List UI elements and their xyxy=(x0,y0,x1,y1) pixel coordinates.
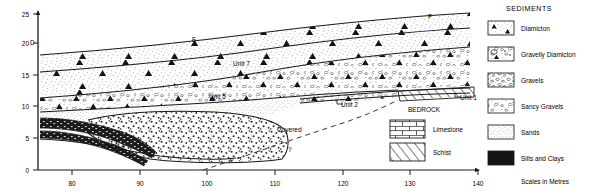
label-covered: Covered xyxy=(277,126,302,133)
label-unit-2: Unit 2 xyxy=(341,101,358,108)
legend-swatch-gravels xyxy=(488,73,514,87)
legend-swatch-diamicton xyxy=(488,21,514,35)
label-unit-7: Unit 7 xyxy=(233,60,250,67)
legend-swatch-sands xyxy=(488,125,514,139)
legend-label-sands: Sands xyxy=(521,129,540,136)
legend-label-diamicton: Diamicton xyxy=(521,25,550,32)
label-bedrock: BEDROCK xyxy=(408,106,441,113)
x-tick-120: 120 xyxy=(338,180,349,187)
x-tick-140: 140 xyxy=(473,180,484,187)
legend-swatch-gravelly-diamicton xyxy=(488,47,514,61)
sediments-legend: SEDIMENTS Diamicton Gravelly Diamicton G… xyxy=(488,5,576,185)
y-tick-0: 0 xyxy=(25,167,29,174)
legend-swatch-limestone xyxy=(390,120,425,138)
x-tick-130: 130 xyxy=(405,180,416,187)
y-tick-20: 20 xyxy=(22,40,30,47)
label-D: D xyxy=(30,39,35,46)
legend-label-sandy-gravels: Sancy Gravels xyxy=(521,103,564,111)
axis-y: 0 5 10 15 20 25 xyxy=(22,10,41,174)
label-E: E xyxy=(192,36,197,43)
legend-label-schist: Schist xyxy=(433,149,451,156)
legend-swatch-sandy-gravels xyxy=(488,99,514,113)
legend-swatch-schist xyxy=(390,143,425,161)
label-unit-4: Unit 4 xyxy=(108,142,125,149)
legend-swatch-silts-clays xyxy=(488,151,514,165)
x-tick-110: 110 xyxy=(270,180,281,187)
x-tick-90: 90 xyxy=(136,180,144,187)
label-F: F xyxy=(428,13,432,20)
geological-cross-section-figure: 0 5 10 15 20 25 80 90 100 110 120 130 14… xyxy=(0,0,594,194)
scale-note: Scales in Metres xyxy=(521,178,570,185)
legend-label-gravelly-diamicton: Gravelly Diamicton xyxy=(521,51,576,59)
y-tick-10: 10 xyxy=(22,103,30,110)
axis-x: 80 90 100 110 120 130 140 xyxy=(38,168,484,187)
bedrock-legend: Limestone Schist xyxy=(390,120,463,161)
x-tick-80: 80 xyxy=(68,180,76,187)
legend-label-silts-clays: Silts and Clays xyxy=(521,155,565,163)
label-unit-1: Unit 1 xyxy=(460,94,477,101)
sediments-legend-title: SEDIMENTS xyxy=(506,5,552,12)
legend-label-gravels: Gravels xyxy=(521,77,544,84)
y-tick-15: 15 xyxy=(22,72,30,79)
label-unit-5: Unit 5 xyxy=(209,93,226,100)
y-tick-5: 5 xyxy=(25,135,29,142)
label-question: ? xyxy=(288,146,292,153)
y-tick-25: 25 xyxy=(22,11,30,18)
legend-label-limestone: Limestone xyxy=(433,126,463,133)
x-tick-100: 100 xyxy=(202,180,213,187)
